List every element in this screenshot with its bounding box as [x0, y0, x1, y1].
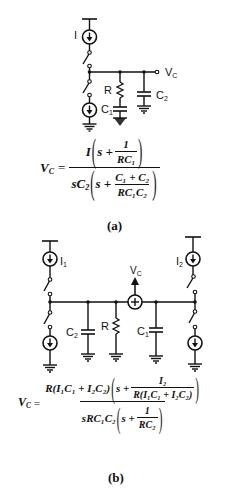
label-source-i2: I2 [176, 256, 183, 268]
eq-b-num-prefix: R(I₁C₁ + I₂C₂) [45, 382, 110, 394]
eq-a-num-prefix: I [86, 144, 91, 160]
eq-b-equals: = [34, 397, 40, 409]
switch-icon [187, 278, 193, 288]
eq-b-lhs: VC [18, 395, 31, 410]
label-resistor: R [104, 85, 112, 96]
resistor-icon [113, 318, 119, 334]
eq-a-num-frac-num: 1 [121, 138, 131, 151]
current-source-icon [43, 252, 57, 266]
label-source-i1: I1 [60, 256, 67, 268]
ground-icon [114, 118, 126, 126]
current-source-icon [83, 103, 97, 117]
resistor-icon [117, 82, 123, 98]
eq-a-lhs: VC [40, 160, 54, 176]
eq-b-num-s: s + [116, 382, 129, 394]
label-resistor: R [101, 321, 109, 332]
eq-a-main-fraction: I ( s + 1 RC1 ) sC2 ( s + C₁ + C₂ RC₁C₂ … [69, 138, 159, 198]
current-source-icon [83, 30, 97, 44]
label-cap-c1: C1 [101, 104, 113, 116]
eq-a-den-prefix: sC2 [71, 176, 89, 192]
equation-a: VC = I ( s + 1 RC1 ) sC2 ( s + C₁ + C₂ R… [40, 138, 200, 198]
current-source-icon [43, 336, 57, 350]
eq-b-num-frac-den: R(I₁C₁ + I₂C₂) [131, 387, 194, 400]
circuit-a [82, 19, 159, 131]
eq-a-den-frac-den: RC₁C₂ [115, 184, 149, 198]
ground-icon [149, 356, 163, 363]
eq-b-den-prefix: sRC₁C₂ [82, 412, 116, 424]
ground-icon [109, 354, 123, 361]
eq-a-num-frac-den: RC1 [115, 151, 137, 166]
ground-icon [188, 364, 202, 371]
output-terminal-icon [155, 70, 159, 74]
eq-a-num-s: s + [97, 144, 113, 160]
ground-icon [83, 124, 97, 131]
switch-icon [44, 281, 50, 291]
ground-icon [137, 106, 151, 113]
caption-b: (b) [108, 470, 124, 486]
arrow-up-icon [131, 277, 139, 285]
switch-icon [83, 83, 89, 93]
label-cap-c1: C1 [137, 326, 149, 338]
eq-a-den-s: s + [96, 176, 112, 192]
eq-a-den-frac-num: C₁ + C₂ [113, 171, 151, 184]
equation-b: VC = R(I₁C₁ + I₂C₂) ( s + I₂ R(I₁C₁ + I₂… [18, 375, 233, 430]
eq-b-main-fraction: R(I₁C₁ + I₂C₂) ( s + I₂ R(I₁C₁ + I₂C₂) )… [43, 375, 202, 430]
label-cap-c2: C2 [66, 327, 78, 339]
current-source-icon [186, 252, 200, 266]
switch-icon [83, 54, 89, 64]
ground-icon [43, 365, 57, 372]
label-cap-c2: C2 [156, 90, 168, 102]
eq-b-den-frac-num: 1 [143, 405, 152, 417]
label-current-source: I [74, 30, 77, 41]
current-source-icon [188, 336, 202, 350]
ground-icon [81, 354, 95, 361]
eq-b-num-frac-num: I₂ [157, 375, 168, 387]
label-output-vc: VC [165, 67, 177, 79]
eq-b-den-frac-den: RC₂ [137, 417, 158, 430]
eq-a-equals: = [58, 160, 65, 176]
caption-a: (a) [107, 218, 122, 234]
label-output-vc: VC [130, 266, 142, 277]
switch-icon [44, 314, 50, 324]
switch-icon [189, 313, 195, 323]
eq-b-den-s: s + [122, 412, 135, 424]
